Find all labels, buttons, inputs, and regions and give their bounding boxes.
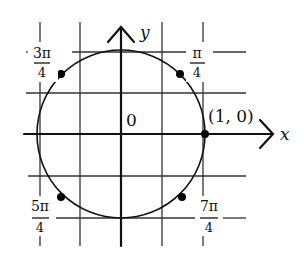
- point-1-0-label: (1, 0): [208, 106, 254, 126]
- point-5pi-over-4: [57, 193, 65, 201]
- x-axis-label: x: [280, 124, 290, 144]
- angle-denominator: 4: [193, 65, 201, 80]
- y-axis-label: y: [139, 22, 150, 42]
- point-1-0: [201, 130, 209, 138]
- angle-label-7pi-over-4: 7π 4: [195, 196, 223, 236]
- angle-denominator: 4: [205, 220, 213, 235]
- angle-label-3pi-over-4: 3π 4: [28, 42, 58, 82]
- unit-circle-diagram: y x 0 (1, 0) π 4 3π 4 5π 4 7π 4: [0, 0, 304, 264]
- angle-label-pi-over-4: π 4: [186, 42, 210, 82]
- angle-label-5pi-over-4: 5π 4: [26, 196, 56, 236]
- origin-label: 0: [126, 110, 137, 130]
- point-3pi-over-4: [57, 70, 65, 78]
- angle-numerator: 7π: [200, 198, 218, 214]
- angle-numerator: 5π: [31, 198, 49, 214]
- angle-denominator: 4: [36, 220, 44, 235]
- angle-denominator: 4: [38, 65, 46, 80]
- point-pi-over-4: [176, 70, 184, 78]
- angle-numerator: π: [192, 45, 201, 61]
- angle-numerator: 3π: [33, 45, 51, 61]
- point-7pi-over-4: [178, 193, 186, 201]
